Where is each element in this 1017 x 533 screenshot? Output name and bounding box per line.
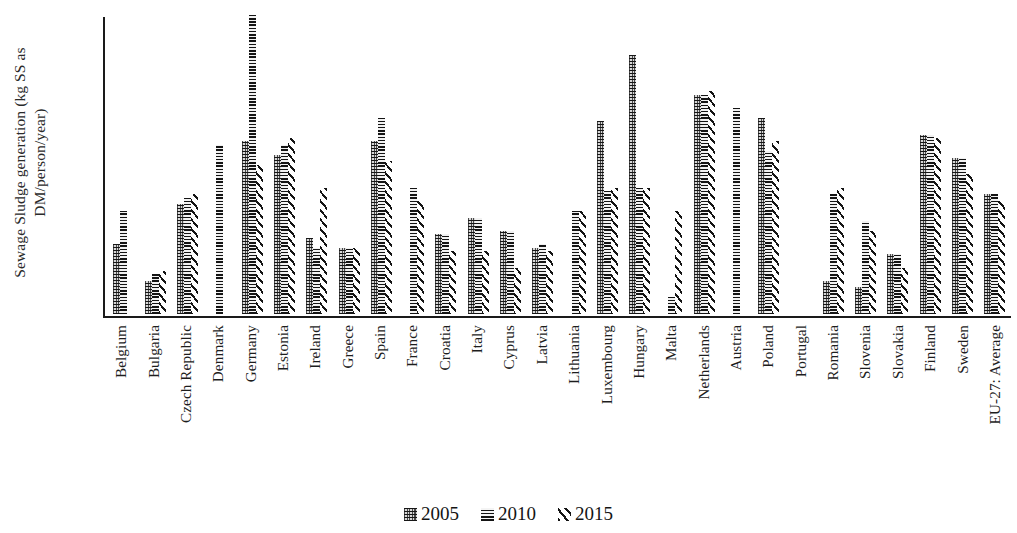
x-axis-labels: BelgiumBulgariaCzech RepublicDenmarkGerm… bbox=[105, 322, 1011, 507]
x-label-cell: Slovakia bbox=[882, 322, 914, 507]
x-label-cell: Belgium bbox=[105, 322, 137, 507]
bar-2010 bbox=[184, 198, 191, 314]
bar-group bbox=[914, 17, 946, 314]
x-axis-label: Luxembourg bbox=[598, 325, 616, 404]
bar-group bbox=[172, 17, 204, 314]
x-axis-label: Germany bbox=[242, 325, 260, 382]
bar-2015 bbox=[675, 211, 682, 314]
x-axis-label: Denmark bbox=[209, 325, 227, 382]
x-label-cell: Cyprus bbox=[493, 322, 525, 507]
bar-2010 bbox=[927, 135, 934, 314]
bar-2010 bbox=[313, 248, 320, 314]
bar-2005 bbox=[855, 287, 862, 314]
bar-2010 bbox=[894, 254, 901, 314]
x-label-cell: Germany bbox=[234, 322, 266, 507]
bar-groups bbox=[107, 17, 1011, 314]
bar-2005 bbox=[339, 248, 346, 314]
x-label-cell: Hungary bbox=[623, 322, 655, 507]
bar-group bbox=[527, 17, 559, 314]
bar-2010 bbox=[733, 108, 740, 314]
x-label-cell: Finland bbox=[914, 322, 946, 507]
bar-2015 bbox=[579, 211, 586, 314]
bar-2010 bbox=[830, 194, 837, 314]
bar-2005 bbox=[629, 55, 636, 314]
x-label-cell: Greece bbox=[332, 322, 364, 507]
bar-2015 bbox=[353, 248, 360, 314]
bar-2010 bbox=[507, 231, 514, 314]
bar-2005 bbox=[113, 244, 120, 314]
bar-group bbox=[559, 17, 591, 314]
bar-2015 bbox=[837, 188, 844, 314]
x-axis-label: Czech Republic bbox=[177, 325, 195, 423]
legend-label: 2010 bbox=[498, 503, 536, 525]
x-label-cell: Spain bbox=[364, 322, 396, 507]
x-axis-label: Netherlands bbox=[695, 325, 713, 399]
bar-group bbox=[494, 17, 526, 314]
legend-label: 2005 bbox=[421, 503, 459, 525]
bar-2005 bbox=[145, 281, 152, 314]
bar-2015 bbox=[514, 268, 521, 315]
x-label-cell: Netherlands bbox=[687, 322, 719, 507]
x-axis-label: Bulgaria bbox=[145, 325, 163, 378]
bar-2010 bbox=[120, 211, 127, 314]
bar-group bbox=[624, 17, 656, 314]
x-label-cell: Estonia bbox=[267, 322, 299, 507]
bar-2015 bbox=[288, 138, 295, 314]
x-label-cell: Ireland bbox=[299, 322, 331, 507]
bar-group bbox=[591, 17, 623, 314]
checker-swatch bbox=[404, 508, 417, 521]
sewage-sludge-generation-chart: Sewage Sludge generation (kg SS as DM/pe… bbox=[0, 0, 1017, 533]
x-axis-label: Latvia bbox=[533, 325, 551, 364]
bar-2005 bbox=[532, 248, 539, 314]
bar-group bbox=[204, 17, 236, 314]
bar-2010 bbox=[765, 151, 772, 314]
bar-2015 bbox=[772, 141, 779, 314]
x-axis-label: Hungary bbox=[630, 325, 648, 379]
x-axis-label: France bbox=[403, 325, 421, 367]
x-label-cell: Lithuania bbox=[558, 322, 590, 507]
bar-2005 bbox=[274, 155, 281, 314]
bar-2010 bbox=[249, 15, 256, 314]
x-label-cell: Denmark bbox=[202, 322, 234, 507]
bar-2015 bbox=[546, 251, 553, 314]
bar-2005 bbox=[500, 231, 507, 314]
bar-group bbox=[333, 17, 365, 314]
x-label-cell: Croatia bbox=[429, 322, 461, 507]
x-label-cell: Romania bbox=[817, 322, 849, 507]
bar-2015 bbox=[417, 201, 424, 314]
bar-group bbox=[139, 17, 171, 314]
horizontal-lines-swatch bbox=[481, 508, 494, 521]
x-label-cell: Luxembourg bbox=[590, 322, 622, 507]
bar-2010 bbox=[959, 158, 966, 314]
x-axis-label: Austria bbox=[727, 325, 745, 370]
bar-2010 bbox=[442, 234, 449, 314]
bar-2005 bbox=[597, 121, 604, 314]
x-axis-label: Slovakia bbox=[889, 325, 907, 379]
bar-2010 bbox=[604, 191, 611, 314]
chart-legend: 200520102015 bbox=[0, 503, 1017, 525]
bar-2015 bbox=[869, 231, 876, 314]
legend-label: 2015 bbox=[575, 503, 613, 525]
bar-2010 bbox=[862, 221, 869, 314]
bar-2005 bbox=[952, 158, 959, 314]
x-axis-label: Lithuania bbox=[565, 325, 583, 384]
x-label-cell: France bbox=[396, 322, 428, 507]
legend-item-2005: 2005 bbox=[404, 503, 459, 525]
bar-group bbox=[785, 17, 817, 314]
bar-2015 bbox=[191, 194, 198, 314]
x-axis-label: Cyprus bbox=[500, 325, 518, 369]
x-axis-label: Italy bbox=[468, 325, 486, 353]
bar-group bbox=[688, 17, 720, 314]
bar-2005 bbox=[468, 218, 475, 314]
x-axis-label: Ireland bbox=[306, 325, 324, 369]
x-axis-label: Slovenia bbox=[856, 325, 874, 379]
bar-group bbox=[946, 17, 978, 314]
legend-item-2015: 2015 bbox=[558, 503, 613, 525]
x-label-cell: Portugal bbox=[785, 322, 817, 507]
bar-group bbox=[398, 17, 430, 314]
bar-2015 bbox=[934, 138, 941, 314]
x-label-cell: Poland bbox=[752, 322, 784, 507]
y-axis-title: Sewage Sludge generation (kg SS as DM/pe… bbox=[0, 0, 60, 325]
bar-2005 bbox=[242, 141, 249, 314]
bar-group bbox=[720, 17, 752, 314]
